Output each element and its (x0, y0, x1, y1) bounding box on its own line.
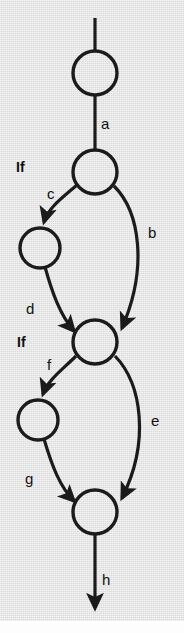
edge-label-e: e (151, 413, 159, 428)
node-n1 (73, 51, 117, 95)
edge-label-f: f (47, 357, 51, 372)
node-n3 (20, 228, 60, 268)
edge-d (45, 267, 74, 331)
edge-label-g: g (25, 471, 33, 486)
branch-annotation-if-2: If (17, 335, 26, 349)
edge-label-a: a (101, 116, 109, 131)
node-n2 (73, 150, 117, 194)
branch-annotation-if-1: If (16, 160, 25, 174)
edge-label-c: c (47, 186, 55, 201)
node-n5 (18, 400, 58, 440)
node-n6 (73, 490, 117, 534)
node-n4 (73, 320, 117, 364)
edge-label-b: b (148, 225, 156, 240)
control-flow-graph-figure: a c b d f e g h If If (0, 0, 184, 633)
page-bottom-margin (0, 621, 184, 633)
edge-label-d: d (26, 301, 34, 316)
edge-label-h: h (102, 572, 110, 587)
edge-g (44, 439, 74, 501)
edge-b (114, 186, 138, 328)
edge-e (115, 356, 140, 498)
